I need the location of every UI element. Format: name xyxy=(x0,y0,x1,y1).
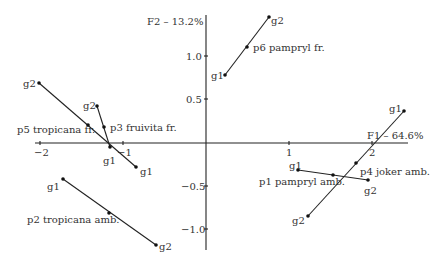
point-mean xyxy=(354,161,358,165)
y-tick-label: 1.0 xyxy=(186,51,202,62)
label-g1: g1 xyxy=(103,155,116,166)
point-g1 xyxy=(402,109,406,113)
x-axis-title: F1 – 64.6% xyxy=(367,130,423,141)
x-tick-label: −2 xyxy=(34,147,49,158)
x-tick-label: 1 xyxy=(286,147,292,158)
series-p4: g1 g2 p4 joker amb. xyxy=(292,103,430,226)
label-g2: g2 xyxy=(23,78,36,89)
label-g2: g2 xyxy=(159,241,172,252)
point-g2 xyxy=(306,214,310,218)
y-tick-label: 0.5 xyxy=(186,94,202,105)
label-g1: g1 xyxy=(211,70,224,81)
label-g2: g2 xyxy=(271,15,284,26)
label-product: p3 fruivita fr. xyxy=(110,122,177,133)
label-g2: g2 xyxy=(292,215,305,226)
y-axis-title: F2 – 13.2% xyxy=(147,16,203,27)
label-g2: g2 xyxy=(364,185,377,196)
point-g1 xyxy=(108,145,112,149)
series-p6: g1 g2 p6 pampryl fr. xyxy=(211,15,325,81)
label-product: p2 tropicana amb. xyxy=(27,214,120,225)
label-g1: g1 xyxy=(140,166,153,177)
label-g1: g1 xyxy=(47,181,60,192)
label-product: p4 joker amb. xyxy=(360,166,430,177)
label-g1: g1 xyxy=(389,103,402,114)
point-g2 xyxy=(154,243,158,247)
point-g2 xyxy=(37,81,41,85)
label-product: p1 pampryl amb. xyxy=(259,176,345,187)
point-g1 xyxy=(61,177,65,181)
y-tick-label: −1.0 xyxy=(181,224,205,235)
label-product: p6 pampryl fr. xyxy=(253,42,325,53)
series-p2: g1 g2 p2 tropicana amb. xyxy=(27,177,172,252)
point-g2 xyxy=(366,178,370,182)
y-tick-label: −0.5 xyxy=(181,181,205,192)
label-g2: g2 xyxy=(83,100,96,111)
point-mean xyxy=(102,125,106,129)
point-mean xyxy=(245,45,249,49)
label-g1: g1 xyxy=(289,160,302,171)
point-g1 xyxy=(134,165,138,169)
pca-biplot: −2 −1 1 2 1.0 0.5 −0.5 −1.0 F2 – 13.2% F… xyxy=(0,0,434,267)
label-product: p5 tropicana fr. xyxy=(17,124,95,135)
